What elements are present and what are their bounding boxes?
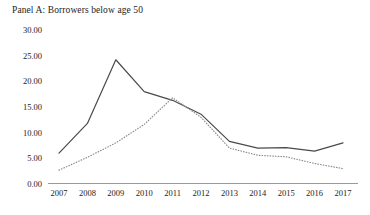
chart-page: Panel A: Borrowers below age 50 30.0025.… xyxy=(0,0,370,215)
x-tick-label: 2017 xyxy=(335,188,352,198)
y-tick-label: 30.00 xyxy=(23,25,42,35)
x-tick-label: 2013 xyxy=(221,188,238,198)
series-line-dotted xyxy=(59,98,343,170)
x-axis: 2007200820092010201120122013201420152016… xyxy=(48,188,356,202)
x-tick-label: 2011 xyxy=(164,188,181,198)
x-tick-label: 2008 xyxy=(79,188,96,198)
chart-svg xyxy=(48,30,356,184)
x-tick-label: 2010 xyxy=(136,188,153,198)
y-tick-label: 15.00 xyxy=(23,102,42,112)
x-tick-label: 2016 xyxy=(306,188,323,198)
x-tick-label: 2012 xyxy=(193,188,210,198)
x-tick-label: 2007 xyxy=(51,188,68,198)
y-tick-label: 0.00 xyxy=(27,179,42,189)
y-tick-label: 5.00 xyxy=(27,153,42,163)
x-tick-label: 2014 xyxy=(249,188,266,198)
y-axis: 30.0025.0020.0015.0010.005.000.00 xyxy=(0,30,46,184)
plot-area xyxy=(48,30,356,184)
page-title: Panel A: Borrowers below age 50 xyxy=(12,5,143,15)
series-line-solid xyxy=(59,60,343,153)
y-tick-label: 20.00 xyxy=(23,76,42,86)
y-tick-label: 10.00 xyxy=(23,128,42,138)
y-tick-label: 25.00 xyxy=(23,51,42,61)
x-tick-label: 2015 xyxy=(278,188,295,198)
x-axis-line xyxy=(48,183,358,184)
x-tick-label: 2009 xyxy=(107,188,124,198)
